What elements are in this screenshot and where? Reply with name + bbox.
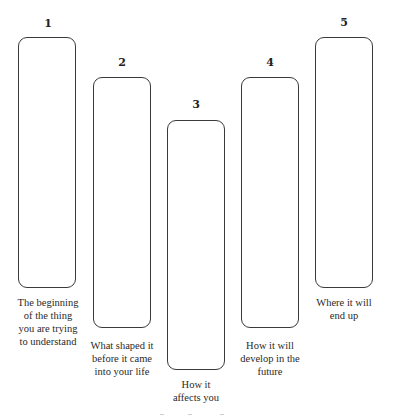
step-5-label: Where it will end up bbox=[294, 296, 393, 322]
step-2-label-line: before it came bbox=[72, 352, 172, 365]
step-5-label-line: Where it will bbox=[294, 296, 393, 309]
step-2-label-line: into your life bbox=[72, 365, 172, 378]
step-4-label-line: future bbox=[220, 365, 320, 378]
step-2-number: 2 bbox=[92, 57, 152, 69]
step-2-box bbox=[93, 77, 151, 328]
step-4-label-line: develop in the bbox=[220, 352, 320, 365]
step-3-box bbox=[167, 120, 225, 370]
step-3-number: 3 bbox=[166, 99, 226, 111]
step-4-label: How it will develop in the future bbox=[220, 339, 320, 378]
step-1-number: 1 bbox=[18, 18, 78, 30]
step-4-label-line: How it will bbox=[220, 339, 320, 352]
step-2-label-line: What shaped it bbox=[72, 339, 172, 352]
step-3-label-line: affects you bbox=[146, 391, 246, 404]
step-1-label-line: The beginning bbox=[0, 296, 98, 309]
step-1-label-line: you are trying bbox=[0, 322, 98, 335]
step-1-label-line: of the thing bbox=[0, 309, 98, 322]
step-4-number: 4 bbox=[240, 57, 300, 69]
step-3-label-line: How it bbox=[146, 378, 246, 391]
step-4-box bbox=[241, 77, 299, 328]
step-5-number: 5 bbox=[314, 17, 374, 29]
step-3-label: How it affects you bbox=[146, 378, 246, 404]
step-5-label-line: end up bbox=[294, 309, 393, 322]
scan-artifact bbox=[160, 414, 230, 416]
step-1-box bbox=[18, 37, 76, 288]
step-2-label: What shaped it before it came into your … bbox=[72, 339, 172, 378]
step-5-box bbox=[315, 37, 373, 288]
